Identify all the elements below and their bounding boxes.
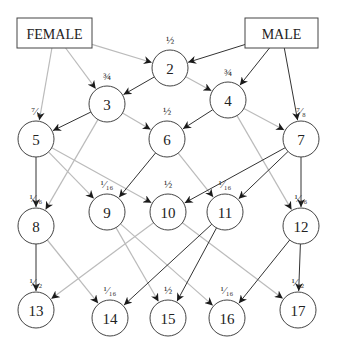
- node-6: 6½: [149, 105, 185, 157]
- node-3: 3¾: [89, 70, 125, 122]
- edge-3-to-5: [53, 112, 91, 131]
- node-label: 2: [166, 61, 174, 77]
- node-fraction: ⁷⁄₈: [31, 105, 41, 117]
- edge-11-to-15: [177, 228, 217, 301]
- edge-4-to-6: [183, 110, 213, 129]
- node-fraction: ¹⁄₃₂: [30, 276, 43, 288]
- node-5: 5⁷⁄₈: [18, 105, 54, 157]
- edge-male-to-4: [240, 48, 270, 85]
- node-fraction: ½: [166, 34, 174, 46]
- edge-male-to-2: [188, 45, 245, 63]
- edge-female-to-3: [66, 48, 96, 89]
- node-2: 2½: [152, 34, 188, 86]
- nodes-layer: 2½3¾4¾5⁷⁄₈6½7⁷⁄₈8¹⁄₁₆9¹⁄₁₆10½11¹⁄₁₆12¹⁄₁…: [18, 34, 319, 336]
- node-label: 5: [32, 132, 40, 148]
- node-11: 11¹⁄₁₆: [207, 178, 243, 230]
- edge-7-to-10: [185, 148, 286, 203]
- node-label: 17: [291, 303, 307, 319]
- node-fraction: ¾: [224, 66, 232, 78]
- node-label: 11: [218, 205, 232, 221]
- edge-2-to-4: [186, 77, 212, 91]
- edge-6-to-9: [119, 153, 156, 197]
- node-label: 9: [103, 205, 111, 221]
- node-fraction: ¹⁄₁₆: [221, 284, 234, 296]
- node-fraction: ½: [164, 178, 172, 190]
- edge-10-to-13: [51, 223, 153, 299]
- node-label: 13: [29, 303, 44, 319]
- node-fraction: ⁷⁄₈: [296, 105, 306, 117]
- edge-female-to-2: [92, 44, 152, 62]
- node-fraction: ½: [163, 105, 171, 117]
- node-13: 13¹⁄₃₂: [18, 276, 54, 328]
- node-fraction: ½: [164, 284, 172, 296]
- edge-2-to-3: [124, 77, 155, 95]
- node-label: 7: [297, 132, 305, 148]
- node-14: 14¹⁄₁₆: [92, 284, 128, 336]
- node-4: 4¾: [210, 66, 246, 118]
- node-fraction: ¹⁄₁₆: [30, 192, 43, 204]
- node-fraction: ¹⁄₁₆: [101, 178, 114, 190]
- node-17: 17¹⁄₃₂: [280, 276, 316, 328]
- node-fraction: ¹⁄₁₆: [219, 178, 232, 190]
- node-label: 10: [161, 205, 176, 221]
- node-fraction: ¹⁄₁₆: [295, 192, 308, 204]
- edge-8-to-14: [47, 240, 98, 303]
- parent-box-male: MALE: [245, 18, 318, 48]
- node-label: 14: [103, 311, 119, 327]
- node-16: 16¹⁄₁₆: [209, 284, 245, 336]
- parent-box-female: FEMALE: [17, 18, 92, 48]
- node-label: 4: [224, 93, 232, 109]
- node-label: 16: [220, 311, 236, 327]
- parent-label: MALE: [262, 27, 302, 42]
- edge-4-to-7: [244, 109, 284, 131]
- node-10: 10½: [150, 178, 186, 230]
- pedigree-diagram: FEMALEMALE 2½3¾4¾5⁷⁄₈6½7⁷⁄₈8¹⁄₁₆9¹⁄₁₆10½…: [0, 0, 337, 359]
- node-8: 8¹⁄₁₆: [18, 192, 54, 244]
- node-fraction: ¾: [103, 70, 111, 82]
- node-label: 15: [161, 311, 176, 327]
- node-fraction: ¹⁄₁₆: [104, 284, 117, 296]
- node-fraction: ¹⁄₃₂: [292, 276, 305, 288]
- parent-label: FEMALE: [27, 27, 83, 42]
- edge-female-to-5: [39, 48, 52, 120]
- node-label: 3: [103, 97, 111, 113]
- node-12: 12¹⁄₁₆: [283, 192, 319, 244]
- node-label: 6: [163, 132, 171, 148]
- node-7: 7⁷⁄₈: [283, 105, 319, 157]
- node-label: 12: [294, 219, 309, 235]
- edge-3-to-6: [123, 113, 151, 129]
- node-15: 15½: [150, 284, 186, 336]
- node-label: 8: [32, 219, 40, 235]
